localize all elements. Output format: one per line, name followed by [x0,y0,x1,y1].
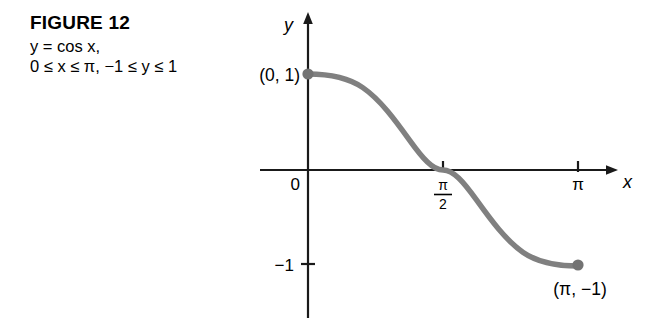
y-axis-arrow-icon [303,12,313,24]
x-tick-label-pi-over-2: π 2 [434,177,452,212]
figure-equation-line: y = cos x, [30,36,255,56]
plot-svg: y x 0 π 2 π −1 (0, 1) (π, −1) [250,0,662,330]
x-axis-label: x [622,172,633,192]
origin-label: 0 [291,175,300,194]
start-point-label: (0, 1) [259,65,300,85]
start-point-marker [302,68,313,79]
pi-over-2-numerator: π [438,177,448,193]
x-axis-arrow-icon [606,165,618,175]
figure-caption: FIGURE 12 y = cos x, 0 ≤ x ≤ π, −1 ≤ y ≤… [30,12,255,76]
end-point-label: (π, −1) [553,279,606,299]
figure-container: FIGURE 12 y = cos x, 0 ≤ x ≤ π, −1 ≤ y ≤… [0,0,662,330]
figure-domain-range-line: 0 ≤ x ≤ π, −1 ≤ y ≤ 1 [30,56,255,76]
figure-title: FIGURE 12 [30,12,255,34]
y-tick-label-minus-one: −1 [275,256,294,275]
pi-over-2-denominator: 2 [439,196,447,212]
cosine-plot: y x 0 π 2 π −1 (0, 1) (π, −1) [250,0,662,330]
end-point-marker [572,259,583,270]
y-axis-label: y [282,15,294,35]
x-tick-label-pi: π [572,175,584,194]
